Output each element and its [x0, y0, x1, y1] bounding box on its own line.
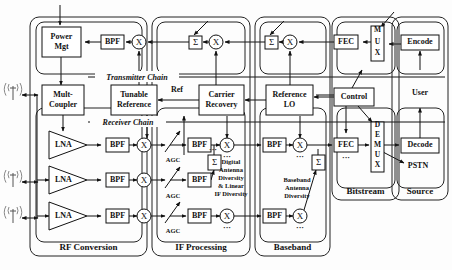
summer-bb-rx-symbol: Σ [316, 157, 321, 167]
bandpass-filter-rx-3-label-0: BPF [110, 211, 125, 220]
tunable-reference-block: TunableReference [111, 85, 157, 115]
mixer-tx-if: X [209, 35, 223, 49]
demux-block-label-3: U [375, 150, 381, 159]
continuation-dots-if-2: ··· [209, 145, 217, 154]
antenna-3 [4, 206, 22, 223]
reference-lo-block: ReferenceLO [266, 85, 313, 115]
mixer-tx-rf: X [132, 35, 146, 49]
multi-coupler-block-label-1: Coupler [49, 100, 77, 109]
low-noise-amplifier-1: LNA [49, 131, 87, 159]
digital-antenna-diversity-note-line-1: Antenna [219, 166, 244, 173]
bandpass-filter-if-1: BPF [188, 138, 211, 152]
user-label: User [412, 88, 428, 97]
wire-agc-slash-1 [165, 131, 180, 152]
mixer-if-1: X [220, 138, 234, 152]
power-management-block-label-0: Power [51, 32, 73, 41]
decoder-block-label-0: Decode [408, 140, 433, 149]
block-diagram-root: PowerMgtMult-CouplerTunableReferenceCarr… [0, 0, 452, 270]
digital-antenna-diversity-note-line-4: IF Diversity [214, 190, 248, 197]
encoder-block-label-0: Encode [407, 37, 433, 46]
demux-block-label-1: E [375, 130, 380, 139]
antenna-2 [4, 170, 22, 187]
decoder-block: Decode [401, 138, 439, 153]
wire-agc-slash-2 [165, 167, 180, 188]
mux-block-label-2: X [375, 48, 381, 57]
agc-label-2: AGC [166, 192, 181, 199]
continuation-dots-if-3: ··· [223, 223, 231, 232]
bandpass-filter-tx-rf: BPF [101, 35, 124, 49]
summer-tx-if: Σ [189, 36, 202, 49]
carrier-recovery-block-label-1: Recovery [206, 100, 238, 109]
low-noise-amplifier-1-label: LNA [55, 140, 72, 149]
baseband-antenna-diversity-note-line-1: Antenna [285, 184, 310, 191]
wire-demux-to-pstn [383, 152, 404, 163]
group-label-bb: Baseband [274, 242, 312, 252]
fec-decoder-rx-label-0: FEC [338, 140, 354, 149]
mixer-if-1-symbol: X [224, 140, 231, 150]
digital-antenna-diversity-note-line-2: Diversity [218, 174, 244, 181]
summer-tx-bb: Σ [265, 36, 278, 49]
power-management-block: PowerMgt [42, 27, 81, 57]
bandpass-filter-bb-1-label-0: BPF [267, 140, 282, 149]
summer-tx-bb-symbol: Σ [269, 37, 274, 47]
fec-encoder-tx-label-0: FEC [338, 37, 354, 46]
bandpass-filter-rx-2: BPF [106, 173, 129, 187]
wire-diag-in-txif [194, 21, 208, 35]
mixer-rx-2: X [137, 173, 151, 187]
low-noise-amplifier-2-label: LNA [55, 175, 72, 184]
low-noise-amplifier-3: LNA [49, 202, 87, 230]
control-block: Control [334, 88, 374, 106]
bandpass-filter-rx-1-label-0: BPF [110, 140, 125, 149]
summer-tx-if-symbol: Σ [193, 37, 198, 47]
mixer-bb-1: X [293, 138, 307, 152]
wire-agc-slash-3 [165, 202, 180, 223]
summer-bb-rx: Σ [312, 155, 325, 170]
transmitter-chain-label: Transmitter Chain [106, 73, 168, 82]
bandpass-filter-rx-1: BPF [106, 138, 129, 152]
bandpass-filter-if-2-label-0: BPF [192, 175, 207, 184]
baseband-antenna-diversity-note-line-2: Diversity [284, 192, 310, 199]
receiver-chain-label: Receiver Chain [102, 118, 154, 127]
mux-block-label-0: M [374, 25, 381, 34]
mixer-rx-2-symbol: X [141, 175, 148, 185]
demux-block-label-2: M [374, 140, 381, 149]
bandpass-filter-if-3-label-0: BPF [192, 211, 207, 220]
antennas-layer [4, 83, 22, 223]
ref-signal-label: Ref [171, 85, 183, 94]
tunable-reference-block-label-1: Reference [117, 100, 152, 109]
agc-label-3: AGC [166, 227, 181, 234]
bandpass-filter-bb-3: BPF [263, 209, 286, 223]
diagram-canvas: PowerMgtMult-CouplerTunableReferenceCarr… [0, 0, 452, 270]
baseband-antenna-diversity-note-line-0: Baseband [283, 176, 310, 183]
tunable-reference-block-label-0: Tunable [120, 90, 148, 99]
carrier-recovery-block: CarrierRecovery [199, 85, 244, 115]
bandpass-filter-if-1-label-0: BPF [192, 140, 207, 149]
bandpass-filter-rx-3: BPF [106, 209, 129, 223]
fec-decoder-rx: FEC [334, 138, 358, 152]
agc-label-1: AGC [166, 156, 181, 163]
demux-block: DEMUX [371, 120, 384, 172]
encoder-block: Encode [401, 35, 439, 50]
mixer-tx-rf-symbol: X [136, 37, 143, 47]
demux-block-label-0: D [375, 120, 381, 129]
mixer-tx-bb: X [283, 35, 297, 49]
mixer-tx-bb-symbol: X [287, 37, 294, 47]
summer-if-rx-symbol: Σ [212, 157, 217, 167]
fec-encoder-tx: FEC [334, 35, 358, 49]
group-label-if: IF Processing [175, 242, 227, 252]
mixer-rx-1: X [137, 138, 151, 152]
wire-diag-in-txbb [270, 21, 284, 35]
demux-block-label-4: X [375, 160, 381, 169]
group-label-src: Source [407, 186, 433, 196]
mixer-rx-3-symbol: X [141, 211, 148, 221]
bandpass-filter-if-2: BPF [188, 173, 211, 187]
bandpass-filter-bb-1: BPF [263, 138, 286, 152]
low-noise-amplifier-3-label: LNA [55, 211, 72, 220]
mixer-rx-3: X [137, 209, 151, 223]
group-label-bits: Bitstream [347, 186, 385, 196]
power-management-block-label-1: Mgt [54, 42, 69, 51]
bandpass-filter-tx-rf-label-0: BPF [105, 37, 120, 46]
control-block-label-0: Control [341, 92, 368, 101]
mixer-tx-if-symbol: X [213, 37, 220, 47]
continuation-dots-bb-1: ··· [296, 152, 304, 161]
